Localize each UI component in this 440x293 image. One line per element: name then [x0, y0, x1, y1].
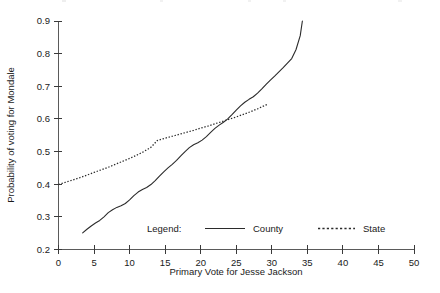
line-chart: 0.20.30.40.50.60.70.80.9 051015202530354… — [0, 0, 440, 293]
x-tick-label-40: 40 — [338, 257, 349, 268]
y-tick-label-0.6: 0.6 — [37, 113, 50, 124]
y-axis-title: Probability of voting for Mondale — [5, 67, 16, 203]
x-tick-label-10: 10 — [124, 257, 135, 268]
y-tick-label-0.4: 0.4 — [37, 179, 50, 190]
x-axis-ticks: 05101520253035404550 — [56, 245, 419, 268]
x-tick-label-45: 45 — [373, 257, 384, 268]
chart-figure: 0.20.30.40.50.60.70.80.9 051015202530354… — [0, 0, 440, 293]
x-tick-label-0: 0 — [56, 257, 61, 268]
chart-legend: Legend: County State — [147, 223, 385, 234]
legend-label-county: County — [253, 223, 283, 234]
x-tick-label-50: 50 — [409, 257, 420, 268]
y-tick-label-0.3: 0.3 — [37, 211, 50, 222]
legend-label-state: State — [363, 223, 385, 234]
y-tick-label-0.8: 0.8 — [37, 48, 50, 59]
top-edge-artifact — [62, 0, 402, 2]
x-tick-label-35: 35 — [302, 257, 313, 268]
x-tick-label-5: 5 — [91, 257, 96, 268]
y-tick-label-0.9: 0.9 — [37, 15, 50, 26]
y-tick-label-0.5: 0.5 — [37, 146, 50, 157]
x-axis-title: Primary Vote for Jesse Jackson — [169, 266, 302, 277]
series-line-county — [83, 21, 303, 233]
y-tick-label-0.7: 0.7 — [37, 81, 50, 92]
legend-title: Legend: — [147, 223, 181, 234]
y-tick-label-0.2: 0.2 — [37, 244, 50, 255]
